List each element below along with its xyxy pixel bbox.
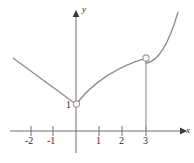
left-linear-branch — [13, 58, 75, 104]
x-tick-label-3: 3 — [143, 136, 148, 146]
y-axis-arrow-icon — [73, 10, 80, 17]
function-graph-figure: -2 -1 1 2 3 y x 1 — [0, 0, 194, 163]
x-axis-label: x — [186, 126, 190, 135]
x-tick-label-neg1: -1 — [47, 136, 55, 146]
open-point-at-0-1 — [73, 101, 79, 107]
right-concave-up-branch — [146, 12, 178, 63]
y-axis-label: y — [82, 5, 86, 14]
y-intercept-label: 1 — [66, 100, 71, 110]
x-tick-label-1: 1 — [96, 136, 101, 146]
x-tick-label-neg2: -2 — [25, 136, 33, 146]
open-point-at-3 — [143, 55, 149, 61]
y-axis — [73, 10, 80, 153]
x-tick-label-2: 2 — [119, 136, 124, 146]
middle-concave-down-branch — [77, 58, 146, 104]
